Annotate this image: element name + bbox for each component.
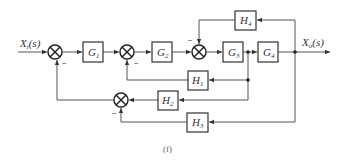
sum1-minus-sign: − [62,59,67,68]
sum4-minus-sign: − [112,109,117,118]
block-diagram: − − − − G1 G2 G3 G4 H4 H1 H2 H3 Xi(s) Xo… [0,0,342,166]
sum3-minus-sign: − [188,36,193,45]
summing-junction-2 [120,45,134,59]
block-g4: G4 [258,42,278,62]
block-g1: G1 [83,42,103,62]
junction-node-output [293,50,297,54]
h3-feedback-in [209,52,295,122]
input-label: Xi(s) [19,37,41,51]
summing-junction-4 [114,93,128,107]
junction-node-h1 [246,78,250,82]
block-h2: H2 [158,91,178,110]
summing-junction-1 [48,45,62,59]
h4-feedback-out [199,20,235,44]
block-g2: G2 [152,42,172,62]
figure-caption: (f) [163,144,172,154]
output-label: Xo(s) [301,36,324,50]
block-h4: H4 [235,11,256,30]
sum2-minus-sign: − [134,59,139,68]
block-h3: H3 [187,113,208,132]
junction-node-g3 [246,50,250,54]
block-g3: G3 [223,42,243,62]
summing-junction-3 [192,45,206,59]
block-h1: H1 [188,71,208,90]
